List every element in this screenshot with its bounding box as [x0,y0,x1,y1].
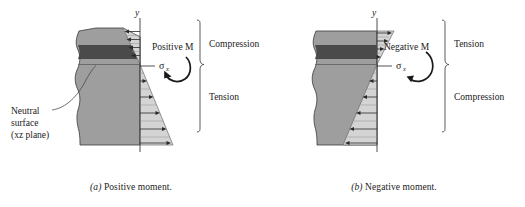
neutral-surface-label-line2: surface [11,118,38,128]
sigma-x-subscript-b: x [402,65,406,72]
moment-arrow-b [407,52,433,82]
caption-text-a: Positive moment. [101,182,172,192]
caption-letter-a: (a) [90,182,101,192]
panel-negative-moment: y [263,0,525,207]
caption-panel-b: (b) Negative moment. [263,182,525,192]
region-label-lower-b: Compression [454,92,504,102]
region-bracket-b [442,20,449,132]
moment-label-b: Negative M [384,42,430,52]
caption-letter-b: (b) [351,182,362,192]
y-axis-label-b: y [371,8,377,18]
neutral-surface-label-line3: (xz plane) [11,130,49,141]
sigma-x-subscript-a: x [165,65,169,72]
region-label-upper-b: Tension [454,39,484,49]
neutral-surface-label-line1: Neutral [11,106,40,116]
panel-a-diagram: y [0,0,262,207]
panel-b-diagram: y [263,0,525,207]
caption-panel-a: (a) Positive moment. [0,182,262,192]
caption-text-b: Negative moment. [363,182,437,192]
y-axis-label-a: y [134,8,140,18]
moment-label-a: Positive M [152,42,194,52]
region-bracket-a [197,20,204,132]
sigma-x-symbol-b: σ [396,60,402,71]
region-label-lower-a: Tension [209,92,239,102]
beam-dark-band-b [315,45,377,59]
sigma-x-symbol-a: σ [159,60,165,71]
bending-stress-figure: y [0,0,525,207]
region-label-upper-a: Compression [209,39,259,49]
panel-positive-moment: y [0,0,262,207]
